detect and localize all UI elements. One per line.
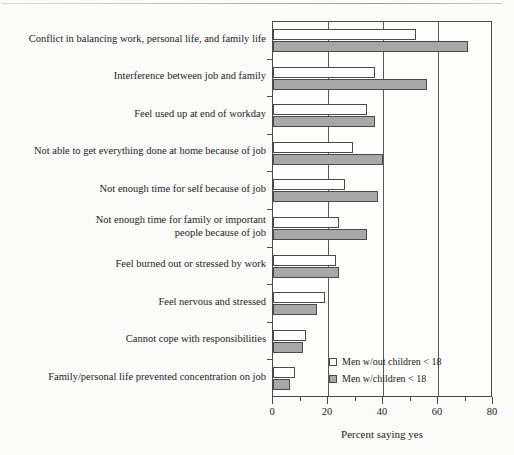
bar-row [273, 285, 491, 323]
x-tick-major-40 [382, 397, 383, 404]
category-label: Family/personal life prevented concentra… [8, 371, 266, 384]
bar-row [273, 135, 491, 173]
legend-swatch-dark [329, 375, 337, 383]
bar-men-without-children[interactable] [273, 217, 339, 228]
category-label: Not enough time for family or important … [8, 214, 266, 239]
x-tick-label-80: 80 [487, 406, 498, 417]
y-tick [267, 209, 272, 210]
category-label: Feel used up at end of workday [8, 108, 266, 121]
y-tick [267, 96, 272, 97]
y-tick [267, 322, 272, 323]
bar-men-without-children[interactable] [273, 179, 345, 190]
category-label: Conflict in balancing work, personal lif… [8, 33, 266, 46]
bar-row [273, 97, 491, 135]
x-tick-label-40: 40 [377, 406, 388, 417]
category-label: Not enough time for self because of job [8, 183, 266, 196]
y-tick [267, 134, 272, 135]
x-tick-minor-50 [410, 397, 411, 401]
y-tick [267, 284, 272, 285]
bar-men-without-children[interactable] [273, 142, 353, 153]
bar-men-without-children[interactable] [273, 67, 375, 78]
bar-men-without-children[interactable] [273, 330, 306, 341]
bar-men-with-children[interactable] [273, 229, 367, 240]
x-tick-label-60: 60 [432, 406, 443, 417]
y-tick [267, 247, 272, 248]
legend-item-men-without-children[interactable]: Men w/out children < 18 [329, 355, 442, 369]
y-tick [267, 59, 272, 60]
bar-men-with-children[interactable] [273, 304, 317, 315]
bar-men-with-children[interactable] [273, 379, 290, 390]
legend-swatch-light [329, 358, 337, 366]
bar-men-without-children[interactable] [273, 255, 336, 266]
chart-legend: Men w/out children < 18 Men w/children <… [329, 355, 442, 389]
bar-row [273, 172, 491, 210]
bar-men-without-children[interactable] [273, 104, 367, 115]
bar-row [273, 22, 491, 60]
bar-men-without-children[interactable] [273, 29, 416, 40]
bar-men-without-children[interactable] [273, 292, 325, 303]
category-label: Feel burned out or stressed by work [8, 258, 266, 271]
bar-men-with-children[interactable] [273, 154, 383, 165]
y-tick [267, 171, 272, 172]
plot-area [272, 21, 492, 397]
x-tick-major-20 [327, 397, 328, 404]
legend-label: Men w/children < 18 [342, 372, 426, 386]
x-tick-minor-30 [355, 397, 356, 401]
y-tick [267, 359, 272, 360]
x-tick-label-0: 0 [269, 406, 274, 417]
x-tick-major-0 [272, 397, 273, 404]
x-axis-title: Percent saying yes [272, 428, 492, 440]
x-tick-major-80 [492, 397, 493, 404]
bar-men-with-children[interactable] [273, 267, 339, 278]
category-label: Not able to get everything done at home … [8, 145, 266, 158]
bar-men-without-children[interactable] [273, 367, 295, 378]
legend-item-men-with-children[interactable]: Men w/children < 18 [329, 372, 442, 386]
bar-men-with-children[interactable] [273, 41, 468, 52]
bar-row [273, 60, 491, 98]
legend-label: Men w/out children < 18 [342, 355, 442, 369]
bar-chart: Conflict in balancing work, personal lif… [0, 0, 514, 455]
bar-men-with-children[interactable] [273, 342, 303, 353]
bar-men-with-children[interactable] [273, 191, 378, 202]
category-label: Interference between job and family [8, 70, 266, 83]
bar-men-with-children[interactable] [273, 79, 427, 90]
bar-row [273, 210, 491, 248]
bar-men-with-children[interactable] [273, 116, 375, 127]
x-tick-major-60 [437, 397, 438, 404]
category-label: Feel nervous and stressed [8, 296, 266, 309]
bar-row [273, 248, 491, 286]
category-label: Cannot cope with responsibilities [8, 333, 266, 346]
x-tick-minor-10 [300, 397, 301, 401]
x-tick-minor-70 [465, 397, 466, 401]
x-tick-label-20: 20 [322, 406, 333, 417]
